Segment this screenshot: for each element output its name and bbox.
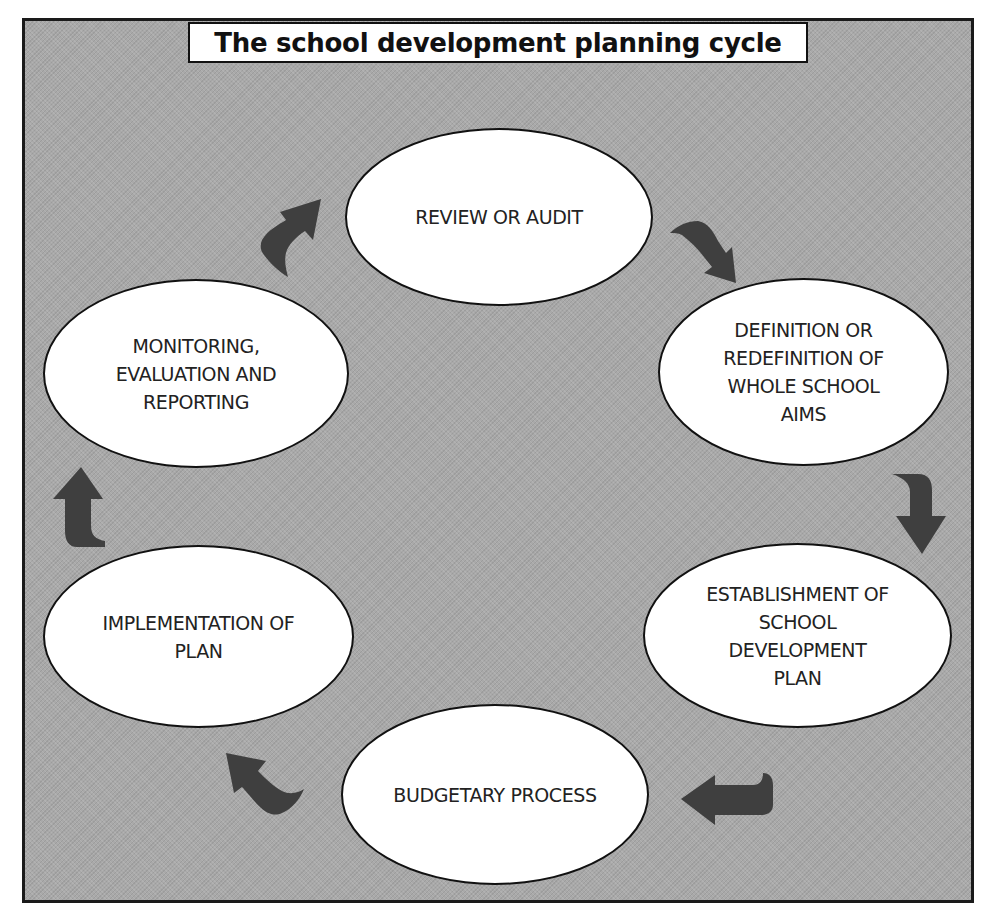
node-implementation-of-plan: IMPLEMENTATION OF PLAN	[43, 545, 354, 728]
node-establishment-of-plan: ESTABLISHMENT OF SCHOOL DEVELOPMENT PLAN	[643, 543, 952, 728]
curved-arrow-up-left-icon	[226, 751, 306, 819]
curved-arrow-up-right-icon	[258, 195, 328, 280]
node-review-or-audit: REVIEW OR AUDIT	[345, 128, 653, 306]
node-budgetary-process: BUDGETARY PROCESS	[341, 704, 649, 885]
node-label: IMPLEMENTATION OF PLAN	[103, 609, 295, 665]
node-label: DEFINITION OR REDEFINITION OF WHOLE SCHO…	[723, 316, 884, 428]
node-label: BUDGETARY PROCESS	[393, 781, 596, 809]
node-label: REVIEW OR AUDIT	[415, 203, 583, 231]
diagram-title-box: The school development planning cycle	[188, 22, 808, 63]
node-label: MONITORING, EVALUATION AND REPORTING	[116, 332, 277, 416]
curved-arrow-down-icon	[888, 470, 950, 554]
node-label: ESTABLISHMENT OF SCHOOL DEVELOPMENT PLAN	[706, 580, 889, 692]
curved-arrow-down-right-icon	[668, 205, 738, 285]
node-monitoring-evaluation-reporting: MONITORING, EVALUATION AND REPORTING	[43, 279, 349, 468]
node-definition-of-aims: DEFINITION OR REDEFINITION OF WHOLE SCHO…	[658, 278, 949, 466]
curved-arrow-up-icon	[53, 465, 109, 549]
diagram-title: The school development planning cycle	[214, 28, 781, 58]
curved-arrow-left-icon	[681, 771, 777, 825]
